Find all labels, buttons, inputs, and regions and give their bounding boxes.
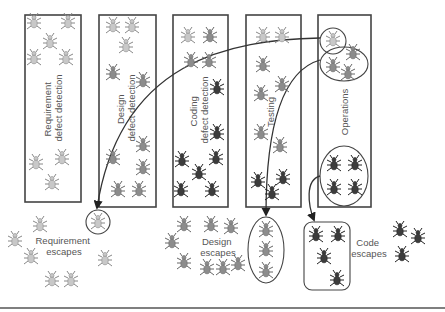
defect-escape-diagram: Requirement defect detection Design defe… <box>0 0 445 312</box>
bug-icon-design <box>165 233 179 249</box>
bug-icon-code <box>411 228 425 244</box>
bug-icon-code <box>330 270 344 286</box>
bug-icon-requirement <box>24 248 38 264</box>
escape-label-code: Code escapes <box>351 237 387 259</box>
escape-label-design: Design escapes <box>200 236 236 258</box>
bug-icon-design <box>224 218 238 234</box>
bug-icon-code <box>309 226 323 242</box>
bug-icon-design <box>259 262 273 278</box>
bug-icon-code <box>331 226 345 242</box>
bug-icon-design <box>177 216 191 232</box>
bug-icon-requirement <box>45 271 59 287</box>
bug-icon-requirement <box>98 250 112 266</box>
bug-icon-code <box>395 246 409 262</box>
bug-icon-requirement <box>8 231 22 247</box>
bug-icon-code <box>317 248 331 264</box>
bug-icon-design <box>216 259 230 275</box>
bug-icon-requirement <box>33 216 47 232</box>
phase-label-operations: Operations <box>339 89 350 136</box>
bug-icon-requirement <box>91 213 105 229</box>
bug-icon-design <box>177 253 191 269</box>
bug-icon-design <box>259 221 273 237</box>
bug-icon-design <box>204 216 218 232</box>
escape-label-requirement: Requirement escapes <box>35 235 92 257</box>
bug-icon-requirement <box>64 271 78 287</box>
bug-icon-design <box>259 241 273 257</box>
bug-icon-code <box>393 221 407 237</box>
bug-icon-design <box>200 259 214 275</box>
phase-label-requirement: Requirement defect detection <box>42 74 64 141</box>
